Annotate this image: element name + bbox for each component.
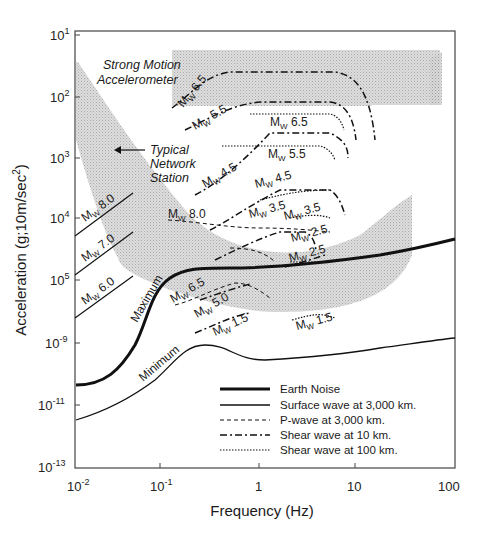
x-axis bbox=[160, 463, 355, 468]
x-tick-label: 100 bbox=[438, 479, 460, 494]
legend-label: Surface wave at 3,000 km. bbox=[280, 399, 416, 411]
svg-text:MW 1.5: MW 1.5 bbox=[294, 310, 335, 335]
svg-text:MW 4.5: MW 4.5 bbox=[253, 168, 294, 193]
x-axis-title: Frequency (Hz) bbox=[210, 502, 313, 519]
x-tick-label: 10-2 bbox=[67, 477, 89, 494]
strong-motion-region-rightcap bbox=[430, 52, 442, 105]
svg-text:MW 7.0: MW 7.0 bbox=[79, 231, 119, 266]
typical-station-label: Network bbox=[150, 157, 197, 171]
y-tick-label: 103 bbox=[50, 149, 69, 166]
strong-motion-label: Accelerometer bbox=[96, 73, 178, 87]
y-tick-labels: 101 102 103 104 105 10-9 10-11 10-13 bbox=[38, 26, 69, 475]
y-tick-label: 102 bbox=[50, 88, 69, 105]
typical-station-label: Station bbox=[150, 171, 189, 185]
legend-label: Shear wave at 10 km. bbox=[280, 429, 391, 441]
svg-text:MW 1.5: MW 1.5 bbox=[210, 310, 251, 341]
y-tick-label: 105 bbox=[50, 271, 69, 288]
x-tick-label: 1 bbox=[255, 479, 262, 494]
y-tick-label: 10-11 bbox=[38, 396, 65, 413]
typical-station-label: Typical bbox=[150, 143, 190, 157]
y-tick-label: 104 bbox=[50, 209, 69, 226]
minimum-label: Minimum bbox=[136, 342, 182, 384]
x-tick-labels: 10-2 10-1 1 10 100 bbox=[67, 477, 460, 494]
legend: Earth Noise Surface wave at 3,000 km. P-… bbox=[220, 383, 416, 456]
x-tick-label: 10 bbox=[347, 479, 361, 494]
svg-text:MW 8.0: MW 8.0 bbox=[168, 207, 206, 223]
y-tick-label: 10-13 bbox=[38, 458, 65, 475]
strong-motion-label: Strong Motion bbox=[103, 58, 181, 72]
y-axis-title: Acceleration (g;10m/sec2) bbox=[11, 164, 29, 335]
y-tick-label: 10-9 bbox=[45, 334, 67, 351]
seismic-noise-chart: 101 102 103 104 105 10-9 10-11 10-13 10-… bbox=[0, 0, 481, 545]
svg-text:MW 6.5: MW 6.5 bbox=[270, 115, 308, 131]
legend-label: Shear wave at 100 km. bbox=[280, 444, 398, 456]
svg-text:MW 5.5: MW 5.5 bbox=[190, 102, 231, 135]
x-tick-label: 10-1 bbox=[150, 477, 172, 494]
legend-label: P-wave at 3,000 km. bbox=[280, 414, 385, 426]
legend-label: Earth Noise bbox=[280, 383, 340, 395]
svg-text:MW 5.5: MW 5.5 bbox=[268, 147, 306, 163]
svg-text:MW 4.5: MW 4.5 bbox=[200, 160, 241, 193]
svg-text:MW 3.5: MW 3.5 bbox=[282, 200, 323, 225]
y-tick-label: 101 bbox=[50, 26, 69, 43]
